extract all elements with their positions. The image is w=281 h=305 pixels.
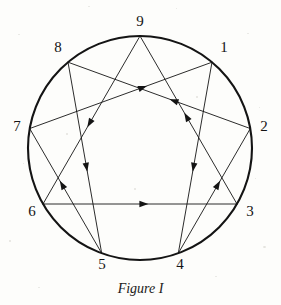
- arrowhead-2-to-8: [170, 99, 180, 105]
- paper-speck: [263, 246, 266, 248]
- point-label-2: 2: [256, 119, 272, 134]
- point-label-6: 6: [24, 204, 40, 219]
- point-label-9: 9: [132, 14, 148, 29]
- point-label-1: 1: [216, 40, 232, 55]
- arrowhead-4-to-2: [213, 181, 220, 190]
- point-label-3: 3: [242, 204, 258, 219]
- enneagram-canvas: [0, 0, 281, 305]
- paper-speck: [196, 96, 198, 98]
- paper-speck: [38, 287, 40, 288]
- paper-speck: [88, 6, 90, 7]
- paper-speck: [259, 107, 260, 108]
- arrowhead-6-to-3: [139, 201, 148, 207]
- arrowhead-9-to-6: [87, 118, 94, 127]
- arrowhead-5-to-7: [60, 181, 67, 190]
- arrowhead-8-to-5: [83, 162, 89, 171]
- point-label-8: 8: [50, 40, 66, 55]
- paper-speck: [247, 33, 249, 34]
- paper-speck: [9, 240, 11, 242]
- outer-circle: [28, 36, 252, 260]
- outer-circle-layer: [28, 36, 252, 260]
- paper-speck: [215, 276, 217, 277]
- paper-speck: [23, 163, 24, 164]
- point-label-5: 5: [94, 257, 110, 272]
- arrowhead-1-to-4: [191, 162, 197, 171]
- point-label-7: 7: [9, 119, 25, 134]
- arrowheads-layer: [60, 86, 220, 207]
- paper-speck: [134, 188, 136, 190]
- paper-speck: [176, 8, 177, 9]
- arrowhead-7-to-1: [137, 86, 147, 92]
- inner-triangle-layer: [43, 36, 237, 204]
- paper-speck: [66, 133, 68, 135]
- enneagram-figure: 912345678 Figure I: [0, 0, 281, 305]
- arrowhead-3-to-9: [184, 113, 191, 122]
- figure-caption: Figure I: [0, 281, 281, 297]
- paper-speck: [255, 178, 256, 179]
- point-label-4: 4: [172, 257, 188, 272]
- paper-speck: [18, 34, 20, 35]
